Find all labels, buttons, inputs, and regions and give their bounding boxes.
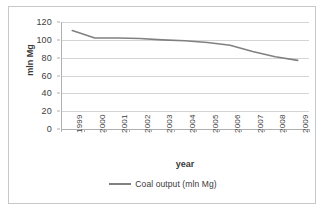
y-axis-tick-mark — [57, 129, 60, 130]
x-axis-tick-mark — [196, 129, 197, 132]
chart-figure: mln Mg 020406080100120 19992000200120022… — [8, 6, 316, 204]
x-axis-tick-labels: 1999200020012002200320042005200620072008… — [61, 129, 309, 163]
y-axis-tick-label: 80 — [42, 53, 52, 63]
x-axis-tick-mark — [264, 129, 265, 132]
x-axis-tick-mark — [61, 129, 62, 132]
y-axis-tick-mark — [57, 39, 60, 40]
x-axis-tick-mark — [241, 129, 242, 132]
x-axis-tick-mark — [84, 129, 85, 132]
y-axis-tick-mark — [57, 75, 60, 76]
x-axis-tick-mark — [174, 129, 175, 132]
y-axis-tick-label: 20 — [42, 106, 52, 116]
y-axis-tick-label: 0 — [47, 124, 52, 134]
y-axis-tick-label: 100 — [36, 35, 52, 45]
y-axis-tick-label: 60 — [42, 71, 52, 81]
legend-item-coal-output: Coal output (mln Mg) — [109, 179, 216, 189]
x-axis-tick-label: 2001 — [120, 114, 129, 133]
y-axis-tick-mark — [57, 57, 60, 58]
x-axis-tick-mark — [286, 129, 287, 132]
legend-line-swatch-icon — [109, 183, 131, 185]
x-axis-tick-mark — [106, 129, 107, 132]
x-axis-title: year — [61, 159, 309, 169]
plot-region — [61, 22, 309, 129]
x-axis-tick-mark — [309, 129, 310, 132]
y-axis-tick-label: 120 — [36, 17, 52, 27]
x-axis-tick-mark — [151, 129, 152, 132]
y-axis-tick-label: 40 — [42, 88, 52, 98]
chart-legend: Coal output (mln Mg) — [9, 179, 317, 189]
y-axis-tick-mark — [57, 22, 60, 23]
x-axis-tick-mark — [129, 129, 130, 132]
y-axis-tick-mark — [57, 111, 60, 112]
y-axis-tick-labels: 020406080100120 — [9, 22, 57, 129]
series-line-coal-output — [61, 22, 309, 129]
legend-item-label: Coal output (mln Mg) — [135, 179, 216, 189]
x-axis-tick-mark — [219, 129, 220, 132]
series-polyline — [72, 30, 297, 60]
x-axis-tick-label: 1999 — [75, 114, 84, 133]
y-axis-tick-mark — [57, 93, 60, 94]
